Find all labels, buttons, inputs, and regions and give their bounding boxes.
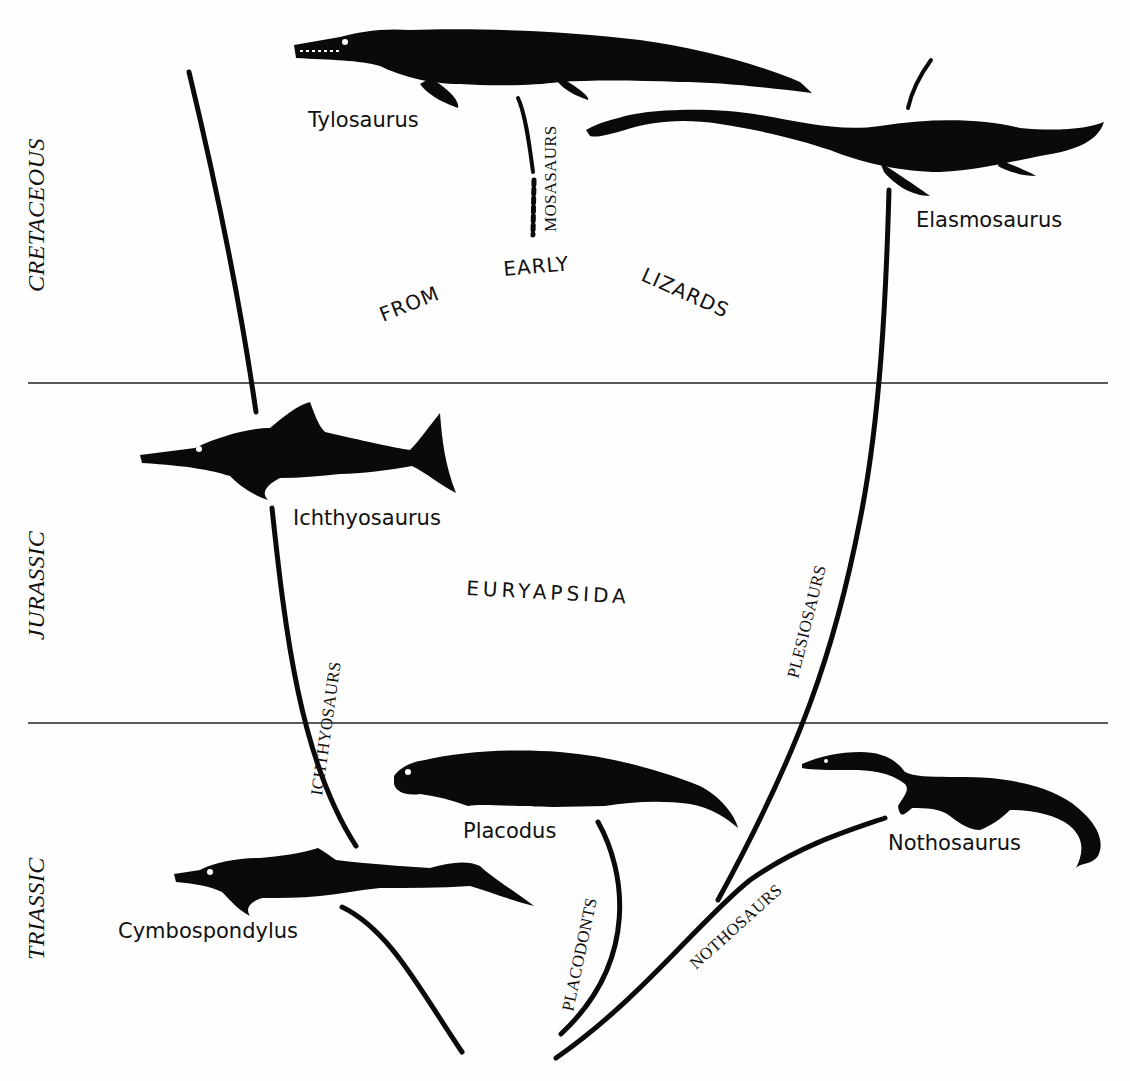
period-label-cretaceous: CRETACEOUS bbox=[23, 138, 49, 292]
elasmosaurus-silhouette bbox=[586, 110, 1104, 196]
clade-label-euryapsida: EURYAPSIDA bbox=[466, 576, 631, 609]
genus-label-cymbospondylus: Cymbospondylus bbox=[118, 919, 298, 943]
group-label-ichthyosaurs: ICHTHYOSAURS bbox=[307, 660, 345, 796]
period-label-triassic: TRIASSIC bbox=[23, 857, 49, 960]
genus-label-elasmosaurus: Elasmosaurus bbox=[916, 208, 1062, 232]
lineage-plesiosaurs-top bbox=[908, 60, 931, 108]
genus-label-placodus: Placodus bbox=[463, 819, 556, 843]
tylosaurus-silhouette bbox=[294, 29, 812, 108]
origin-word-early: EARLY bbox=[502, 251, 570, 281]
genus-label-ichthyosaurus: Ichthyosaurus bbox=[293, 506, 441, 530]
lineage-mosasaurs bbox=[518, 98, 533, 172]
lineage-mosasaurs-dotted bbox=[533, 180, 534, 235]
genus-label-nothosaurus: Nothosaurus bbox=[888, 831, 1021, 855]
genus-label-tylosaurus: Tylosaurus bbox=[307, 108, 419, 132]
cymbospondylus-silhouette bbox=[174, 848, 534, 916]
placodus-silhouette bbox=[394, 750, 738, 828]
origin-word-from: FROM bbox=[376, 281, 443, 327]
lineage-cymbospondylus bbox=[342, 907, 462, 1052]
origin-word-lizards: LIZARDS bbox=[638, 263, 733, 323]
lineage-plesiosaurs bbox=[718, 190, 889, 900]
period-label-jurassic: JURASSIC bbox=[23, 530, 49, 640]
ichthyosaurus-silhouette bbox=[140, 402, 456, 500]
group-label-mosasaurs: MOSASAURS bbox=[541, 125, 560, 232]
lineage-ichthyosaurs-upper bbox=[189, 72, 256, 412]
euryapsida-evolution-diagram: CRETACEOUS JURASSIC TRIASSIC bbox=[0, 0, 1130, 1081]
